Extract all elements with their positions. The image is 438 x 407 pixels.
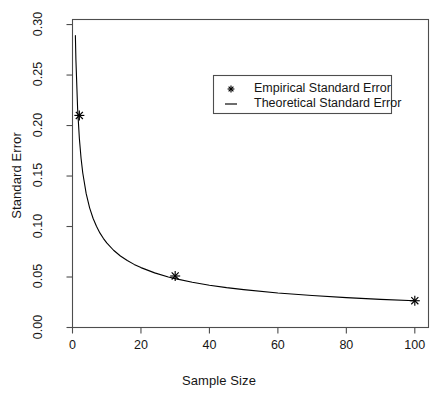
x-axis-ticks (73, 328, 415, 334)
star-marker-icon (410, 296, 420, 306)
y-tick-label: 0.15 (31, 152, 45, 198)
legend-entry-label: Empirical Standard Error (254, 81, 391, 95)
chart-figure: Sample Size Standard Error 0.000.050.100… (0, 0, 438, 407)
empirical-standard-error-points (74, 110, 419, 305)
y-tick-label: 0.20 (31, 102, 45, 148)
x-axis-title: Sample Size (0, 373, 438, 388)
y-tick-label: 0.05 (31, 253, 45, 299)
x-tick-label: 40 (189, 338, 229, 352)
star-marker-icon (74, 110, 84, 120)
x-tick-label: 0 (53, 338, 93, 352)
x-tick-label: 20 (121, 338, 161, 352)
x-tick-label: 80 (326, 338, 366, 352)
plot-frame (73, 20, 429, 328)
y-tick-label: 0.00 (31, 304, 45, 350)
x-tick-label: 100 (395, 338, 435, 352)
x-tick-label: 60 (258, 338, 298, 352)
legend-entry-label: Theoretical Standard Error (254, 96, 401, 110)
y-tick-label: 0.10 (31, 203, 45, 249)
y-axis-ticks (67, 25, 73, 328)
star-marker-icon (170, 271, 180, 281)
y-tick-label: 0.25 (31, 51, 45, 97)
y-axis-title: Standard Error (9, 76, 24, 276)
y-tick-label: 0.30 (31, 1, 45, 47)
star-marker-icon (228, 86, 235, 93)
